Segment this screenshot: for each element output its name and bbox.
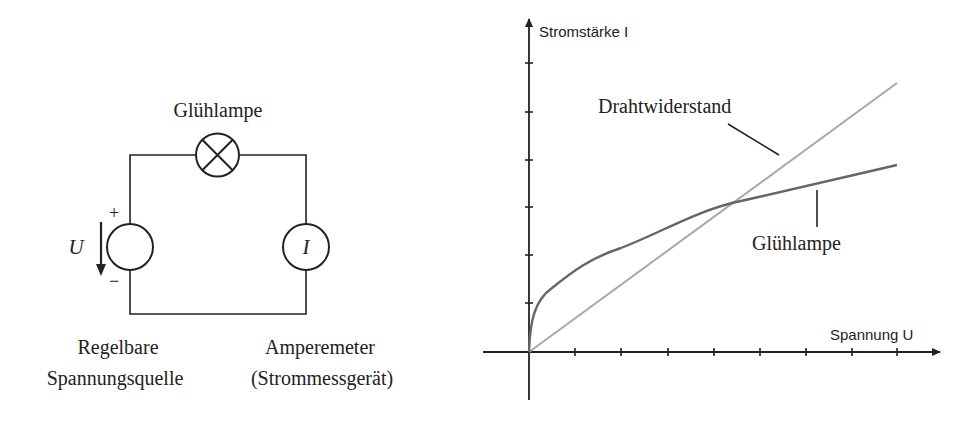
minus-sign: − [109,271,119,291]
plus-sign: + [109,203,119,223]
voltage-source-icon [107,224,153,270]
annotation-wire-label: Drahtwiderstand [598,95,731,117]
lamp-symbol-icon [196,134,239,177]
wire-resistance-line [529,83,897,352]
ammeter-label-line2: (Strommessgerät) [251,367,393,390]
lamp-label: Glühlampe [174,99,263,122]
iv-graph: Stromstärke I Spannung U Drahtwiderstand… [483,19,940,400]
circuit-wires [130,155,306,314]
annotation-wire-leader [728,124,779,155]
lamp-curve [529,165,897,352]
ammeter-symbol: I [302,235,311,259]
voltage-symbol: U [68,235,85,259]
source-label-line2: Spannungsquelle [47,367,184,390]
y-axis-label: Stromstärke I [539,23,628,40]
figure: Glühlampe + − U I Regelbare Spannungsque… [0,0,965,421]
voltage-arrow-icon [96,222,106,276]
annotation-lamp-label: Glühlampe [752,232,841,255]
circuit-diagram: Glühlampe + − U I Regelbare Spannungsque… [47,99,393,390]
source-label-line1: Regelbare [77,336,158,359]
x-axis-label: Spannung U [830,326,913,343]
ammeter-label-line1: Amperemeter [265,336,375,359]
